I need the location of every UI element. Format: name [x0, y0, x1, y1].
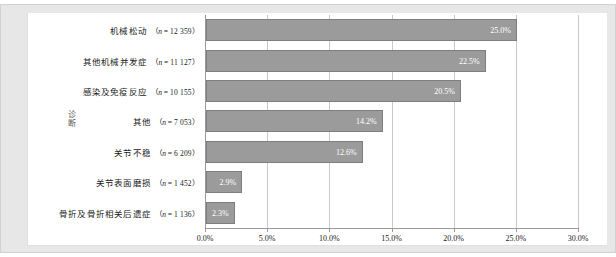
category-count: （n = 6 209）	[151, 149, 199, 158]
x-tick-label: 25.0%	[505, 234, 526, 243]
category-label: 关节不稳 （n = 6 209）	[114, 146, 199, 158]
bar-row: 骨折及骨折相关后遗症 （n = 1 136）2.3%	[205, 198, 578, 228]
bar-row: 机械松动 （n = 12 359）25.0%	[205, 15, 578, 45]
x-tick	[267, 228, 268, 232]
x-tick-label: 0.0%	[197, 234, 214, 243]
bar: 25.0%	[206, 19, 517, 41]
bar-value-label: 12.6%	[336, 147, 357, 156]
figure-frame: 诊断 机械松动 （n = 12 359）25.0%其他机械并发症 （n = 11…	[0, 4, 616, 253]
x-tick	[329, 228, 330, 232]
gridline	[578, 15, 579, 228]
bar-value-label: 2.3%	[212, 208, 229, 217]
bar: 12.6%	[206, 141, 363, 163]
bar: 2.3%	[206, 202, 235, 224]
category-name: 机械松动	[110, 26, 147, 36]
bar-value-label: 22.5%	[459, 56, 480, 65]
plot-area: 机械松动 （n = 12 359）25.0%其他机械并发症 （n = 11 12…	[205, 15, 578, 228]
category-label: 关节表面磨损 （n = 1 452）	[96, 176, 199, 188]
x-tick	[516, 228, 517, 232]
x-tick-label: 20.0%	[443, 234, 464, 243]
bar-row: 其他 （n = 7 053）14.2%	[205, 106, 578, 136]
bar: 20.5%	[206, 80, 461, 102]
y-axis-title: 诊断	[57, 97, 75, 141]
bar-value-label: 2.9%	[219, 178, 236, 187]
x-tick-label: 10.0%	[319, 234, 340, 243]
x-tick-label: 30.0%	[568, 234, 589, 243]
category-count: （n = 7 053）	[151, 118, 199, 127]
category-label: 骨折及骨折相关后遗症 （n = 1 136）	[59, 207, 199, 219]
category-name: 其他机械并发症	[83, 57, 147, 67]
bar-value-label: 20.5%	[434, 87, 455, 96]
category-label: 感染及免疫反应 （n = 10 155）	[83, 85, 199, 97]
category-count: （n = 1 452）	[151, 179, 199, 188]
bar-row: 感染及免疫反应 （n = 10 155）20.5%	[205, 76, 578, 106]
bar-value-label: 14.2%	[356, 117, 377, 126]
bar-value-label: 25.0%	[490, 26, 511, 35]
category-count: （n = 1 136）	[151, 210, 199, 219]
bar-rows: 机械松动 （n = 12 359）25.0%其他机械并发症 （n = 11 12…	[205, 15, 578, 228]
bar-row: 关节不稳 （n = 6 209）12.6%	[205, 137, 578, 167]
x-tick	[578, 228, 579, 232]
category-count: （n = 11 127）	[147, 58, 199, 67]
x-tick	[205, 228, 206, 232]
x-tick-label: 15.0%	[381, 234, 402, 243]
bar-row: 关节表面磨损 （n = 1 452）2.9%	[205, 167, 578, 197]
category-name: 关节表面磨损	[96, 178, 151, 188]
category-name: 骨折及骨折相关后遗症	[59, 209, 151, 219]
bar-row: 其他机械并发症 （n = 11 127）22.5%	[205, 45, 578, 75]
category-label: 机械松动 （n = 12 359）	[110, 24, 199, 36]
category-label: 其他机械并发症 （n = 11 127）	[83, 55, 199, 67]
category-name: 感染及免疫反应	[83, 87, 147, 97]
x-tick	[454, 228, 455, 232]
category-name: 其他	[133, 117, 151, 127]
category-count: （n = 10 155）	[147, 88, 199, 97]
bar: 14.2%	[206, 110, 383, 132]
category-label: 其他 （n = 7 053）	[133, 115, 199, 127]
category-name: 关节不稳	[114, 148, 151, 158]
bar: 2.9%	[206, 171, 242, 193]
bar: 22.5%	[206, 50, 486, 72]
category-count: （n = 12 359）	[147, 27, 199, 36]
x-tick-label: 5.0%	[259, 234, 276, 243]
x-tick	[392, 228, 393, 232]
